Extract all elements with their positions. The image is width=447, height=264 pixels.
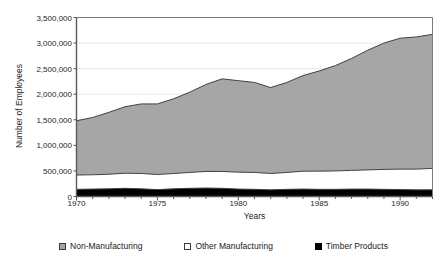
x-axis-tick-label: 1990 (391, 199, 409, 208)
y-axis-tick-label: 0 (18, 192, 72, 201)
x-axis-tick-label: 1975 (149, 199, 167, 208)
x-axis-tick-label: 1985 (310, 199, 328, 208)
y-axis-tick-labels: 0500,0001,000,0001,500,0002,000,0002,500… (16, 0, 72, 264)
legend-swatch-black (315, 243, 322, 250)
y-axis-tick-label: 1,500,000 (18, 115, 72, 124)
y-axis-tick-label: 3,500,000 (18, 13, 72, 22)
y-axis-tick-label: 2,000,000 (18, 90, 72, 99)
x-axis-tick-label: 1970 (68, 199, 86, 208)
area-chart: Number of Employees 0500,0001,000,0001,5… (0, 0, 447, 264)
y-axis-tick-label: 1,000,000 (18, 141, 72, 150)
legend-item[interactable]: Other Manufacturing (184, 241, 272, 251)
legend-swatch-white (184, 243, 191, 250)
y-axis-tick-label: 2,500,000 (18, 64, 72, 73)
x-axis-tick-label: 1980 (229, 199, 247, 208)
legend-label: Non-Manufacturing (70, 241, 142, 251)
y-axis-tick-label: 3,000,000 (18, 39, 72, 48)
legend-swatch-gray (59, 243, 66, 250)
chart-legend: Non-ManufacturingOther ManufacturingTimb… (0, 236, 447, 256)
y-axis-tick-label: 500,000 (18, 166, 72, 175)
x-axis-title: Years (76, 211, 433, 221)
legend-item[interactable]: Timber Products (315, 241, 388, 251)
legend-label: Other Manufacturing (195, 241, 272, 251)
legend-label: Timber Products (326, 241, 388, 251)
legend-item[interactable]: Non-Manufacturing (59, 241, 142, 251)
